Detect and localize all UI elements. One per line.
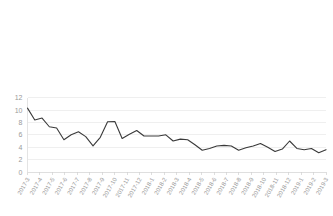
y-axis-tick-label: 10: [15, 107, 23, 114]
axis-lines: [28, 98, 327, 175]
y-axis-tick-label: 0: [19, 169, 23, 176]
y-axis-tick-label: 4: [19, 144, 23, 151]
y-axis-tick-label: 6: [19, 131, 23, 138]
chart-plot-area: 024681012 2017-32017-42017-52017-62017-7…: [0, 0, 333, 216]
data-series: [28, 108, 327, 153]
y-axis-tick-labels: 024681012: [15, 94, 23, 175]
x-axis-tick-labels: 2017-32017-42017-52017-62017-72017-82017…: [16, 176, 329, 199]
line-chart: 024681012 2017-32017-42017-52017-62017-7…: [0, 0, 333, 216]
series-line: [28, 108, 327, 153]
y-axis-tick-label: 12: [15, 94, 23, 101]
y-axis-tick-label: 8: [19, 119, 23, 126]
x-axis-tick-label: 2019-3: [315, 176, 330, 196]
y-axis-tick-label: 2: [19, 156, 23, 163]
